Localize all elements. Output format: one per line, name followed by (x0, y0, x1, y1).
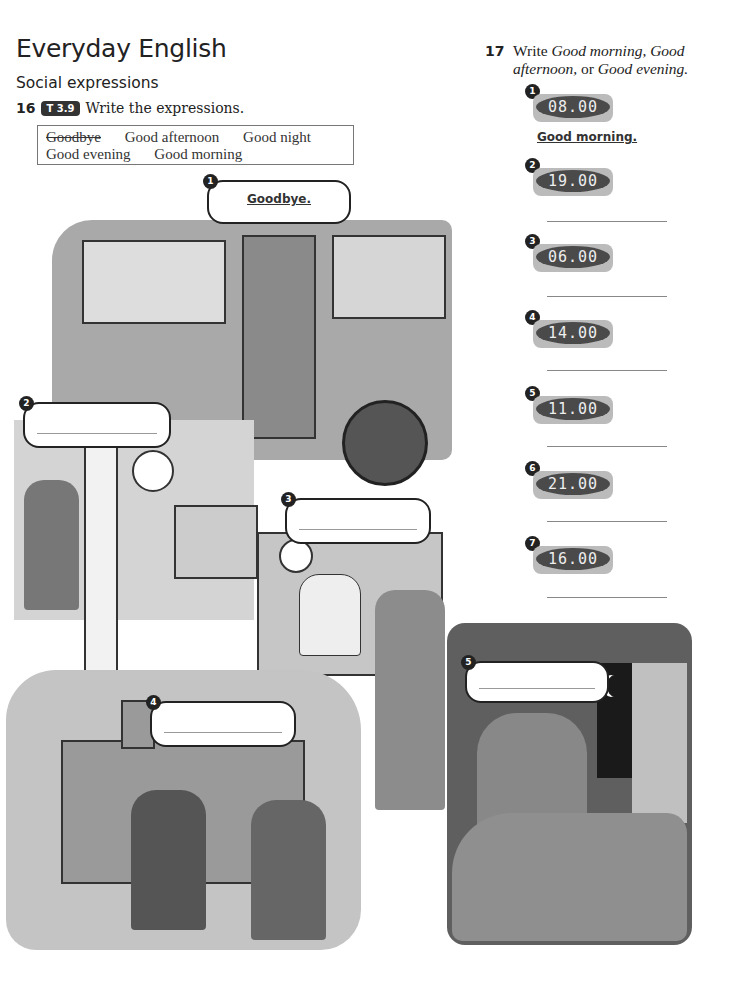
clock-time: 14.00 (536, 322, 610, 344)
answer-text: Good morning. (537, 130, 637, 144)
woman-figure (24, 480, 79, 610)
man-jacket (251, 800, 326, 940)
word-box-item: Good morning (154, 146, 242, 162)
clock-item-6: 6 21.00 (525, 461, 695, 531)
bubble-answer: Goodbye. (209, 192, 349, 206)
receptionist-figure (299, 574, 361, 656)
answer-line[interactable] (547, 521, 667, 522)
wall-clock-icon (132, 450, 174, 492)
answer-line[interactable] (547, 370, 667, 371)
audio-track-badge: T 3.9 (41, 101, 79, 116)
bus-rear-window (332, 235, 446, 319)
computer-monitor (174, 505, 258, 579)
digital-clock: 16.00 (533, 546, 613, 574)
picture-number: 2 (19, 396, 34, 411)
picture-number: 1 (203, 174, 218, 189)
answer-line[interactable] (479, 688, 595, 689)
bed-blanket (452, 813, 687, 941)
instruction-option: Good evening. (598, 60, 688, 77)
word-box: Goodbye Good afternoon Good night Good e… (37, 125, 354, 165)
clock-time: 11.00 (536, 398, 610, 420)
section-subtitle: Social expressions (16, 74, 159, 92)
man-in-suit (375, 590, 445, 810)
word-box-item: Goodbye (46, 129, 101, 145)
illustration-office (14, 420, 254, 620)
clock-item-2: 2 19.00 (525, 158, 695, 228)
man-sweater (131, 790, 206, 930)
speech-bubble-3: 3 (285, 498, 431, 544)
clock-item-4: 4 14.00 (525, 310, 695, 380)
picture-number: 4 (146, 695, 161, 710)
answer-line[interactable] (164, 732, 282, 733)
answer-line[interactable] (547, 446, 667, 447)
picture-number: 5 (461, 655, 476, 670)
digital-clock: 08.00 (533, 94, 613, 122)
answer-line[interactable] (547, 296, 667, 297)
wall-clock-icon (279, 539, 313, 573)
instruction-text: Write (513, 42, 552, 59)
clock-time: 21.00 (536, 473, 610, 495)
digital-clock: 14.00 (533, 320, 613, 348)
digital-clock: 11.00 (533, 396, 613, 424)
exercise-number: 16 (16, 100, 35, 116)
word-box-item: Good evening (46, 146, 131, 162)
speech-bubble-2: 2 (23, 402, 171, 448)
answer-line[interactable] (547, 597, 667, 598)
curtain (632, 663, 687, 823)
clock-time: 08.00 (536, 96, 610, 118)
digital-clock: 19.00 (533, 168, 613, 196)
word-box-item: Good night (243, 129, 311, 145)
speech-bubble-1: 1 Goodbye. (207, 180, 351, 224)
office-door (84, 420, 118, 674)
answer-line[interactable] (37, 433, 157, 434)
page-title: Everyday English (16, 34, 226, 63)
clock-time: 19.00 (536, 170, 610, 192)
picture-number: 3 (281, 492, 296, 507)
speech-bubble-5: 5 (465, 661, 609, 703)
moon-icon (607, 675, 623, 697)
digital-clock: 21.00 (533, 471, 613, 499)
exercise-number: 17 (485, 42, 504, 60)
bus-wheel (342, 400, 428, 486)
answer-line[interactable] (299, 529, 417, 530)
answer-line[interactable] (547, 221, 667, 222)
exercise-17-instruction: 17 Write Good morning, Good afternoon, o… (485, 42, 745, 78)
clock-time: 06.00 (536, 246, 610, 268)
digital-clock: 06.00 (533, 244, 613, 272)
clock-item-5: 5 11.00 (525, 386, 695, 456)
speech-bubble-4: 4 (150, 701, 296, 747)
bus-window (82, 240, 226, 324)
clock-time: 16.00 (536, 548, 610, 570)
clock-item-1: 1 08.00 Good morning. (525, 84, 695, 154)
clock-item-7: 7 16.00 (525, 536, 695, 606)
clock-item-3: 3 06.00 (525, 234, 695, 304)
instruction-text: Write the expressions. (86, 100, 245, 116)
instruction-text: or (577, 60, 598, 77)
bus-door (242, 235, 316, 439)
exercise-16-instruction: 16T 3.9Write the expressions. (16, 100, 244, 116)
word-box-item: Good afternoon (125, 129, 220, 145)
